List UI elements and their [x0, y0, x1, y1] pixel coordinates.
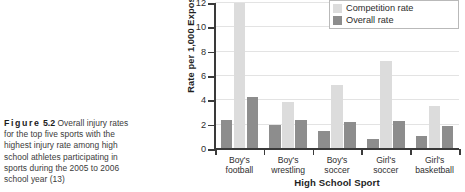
x-category-label-line: basketball	[404, 165, 465, 175]
legend-label-overall-rate: Overall rate	[346, 15, 394, 25]
y-tick-mark	[208, 76, 215, 78]
legend-swatch-overall-rate	[333, 16, 342, 25]
legend-swatch-competition-rate	[333, 4, 342, 13]
x-axis-title: High School Sport	[215, 177, 459, 188]
bar	[269, 125, 281, 149]
y-tick-label: 12	[186, 0, 206, 8]
y-tick-label: 0	[186, 144, 206, 154]
bar	[318, 131, 330, 149]
bar	[380, 61, 392, 149]
bar	[416, 136, 428, 149]
legend-item-competition-rate: Competition rate	[333, 2, 455, 14]
caption-line-5: sports during the 2005 to 2006	[4, 163, 172, 174]
bar	[295, 120, 307, 149]
caption-line-3: highest injury rate among high	[4, 140, 172, 151]
y-tick-label: 2	[186, 120, 206, 130]
y-tick-label: 4	[186, 95, 206, 105]
bar	[221, 120, 233, 149]
bar	[234, 3, 246, 149]
caption-line-2: for the top five sports with the	[4, 129, 172, 140]
figure-number: 5.2	[43, 118, 55, 128]
caption-text-1: Overall injury rates	[58, 118, 129, 128]
y-tick-mark	[208, 100, 215, 102]
bar-chart-figure: Rate per 1,000 Exposures 024681012 Boy's…	[170, 0, 459, 192]
legend-item-overall-rate: Overall rate	[333, 14, 455, 26]
caption-line-1: Figure 5.2 Overall injury rates	[4, 118, 172, 129]
y-tick-label: 6	[186, 71, 206, 81]
bar	[442, 126, 454, 149]
figure-caption: Figure 5.2 Overall injury rates for the …	[4, 118, 172, 185]
bar	[247, 97, 259, 149]
x-axis-line	[214, 148, 459, 150]
y-tick-mark	[208, 3, 215, 5]
y-tick-mark	[208, 149, 215, 151]
x-category-label-line: Girl's	[404, 155, 465, 165]
y-tick-mark	[208, 125, 215, 127]
caption-line-6: school year (13)	[4, 174, 172, 185]
chart-legend: Competition rate Overall rate	[329, 0, 459, 29]
legend-label-competition-rate: Competition rate	[346, 3, 413, 13]
gridline	[215, 75, 459, 76]
y-tick-mark	[208, 52, 215, 54]
gridline	[215, 51, 459, 52]
bar	[282, 102, 294, 149]
y-tick-label: 8	[186, 47, 206, 57]
x-category-label: Girl'sbasketball	[404, 155, 465, 176]
bar	[344, 122, 356, 149]
caption-line-4: school athletes participating in	[4, 152, 172, 163]
bar	[393, 121, 405, 149]
bar	[429, 106, 441, 149]
y-tick-label: 10	[186, 22, 206, 32]
bar	[331, 85, 343, 149]
figure-label: Figure	[4, 118, 40, 128]
y-tick-mark	[208, 27, 215, 29]
